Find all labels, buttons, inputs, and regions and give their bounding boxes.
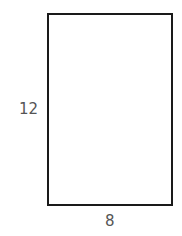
height-label: 12 (19, 102, 38, 117)
rectangle-shape (47, 13, 173, 206)
width-label: 8 (105, 214, 115, 229)
